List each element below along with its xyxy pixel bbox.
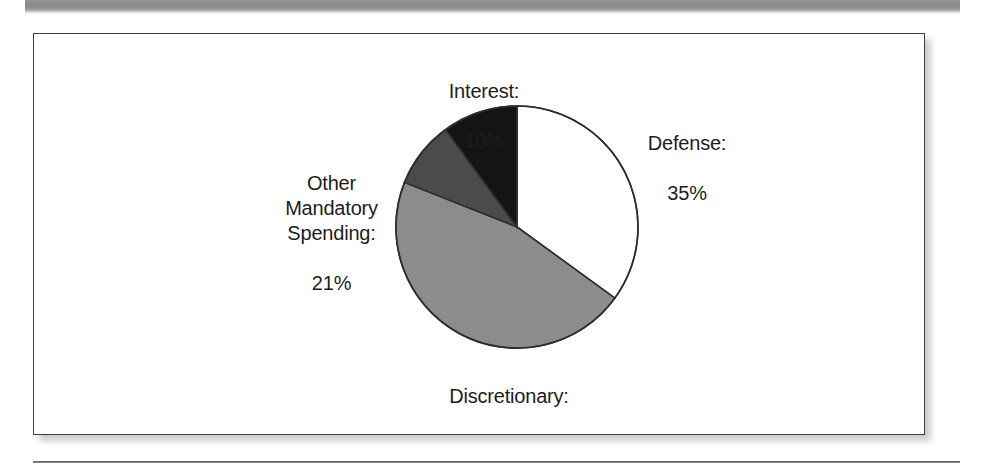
scan-top-band [25,0,960,11]
page-bottom-rule [33,461,960,463]
scan-top-band-fade [25,11,960,14]
pie-label-defense: Defense: 35% [592,106,782,231]
pie-label-interest-name: Interest: [389,79,579,104]
figure-frame: Interest: 10% Defense: 35% Other Mandato… [33,33,925,435]
pie-label-other-mandatory: Other Mandatory Spending: 21% [239,146,424,321]
pie-label-defense-name: Defense: [592,131,782,156]
pie-label-discretionary: Discretionary: 34% [379,359,639,434]
page-root: Interest: 10% Defense: 35% Other Mandato… [0,0,994,474]
pie-label-other-mandatory-value: 21% [239,271,424,296]
pie-label-defense-value: 35% [592,181,782,206]
pie-label-other-mandatory-name: Other Mandatory Spending: [239,171,424,246]
pie-label-discretionary-name: Discretionary: [379,384,639,409]
figure-inner: Interest: 10% Defense: 35% Other Mandato… [34,34,924,434]
